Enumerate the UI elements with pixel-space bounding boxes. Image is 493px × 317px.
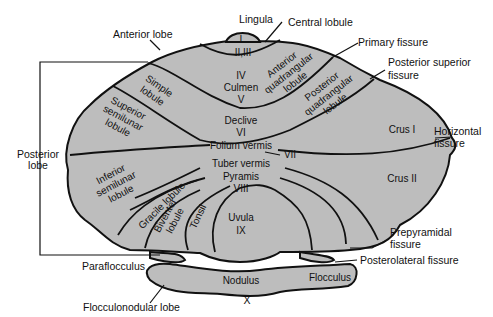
paraflocculus-shape-right — [300, 252, 334, 262]
label-nodulus: Nodulus — [223, 275, 260, 286]
label-posterior-superior-2: fissure — [388, 69, 419, 81]
leader-central-lobule — [265, 22, 282, 42]
label-VII: VII — [284, 149, 296, 160]
paraflocculus-shape-left — [150, 252, 185, 262]
label-culmen: Culmen — [224, 82, 258, 93]
label-VIII: VIII — [233, 183, 248, 194]
label-IV: IV — [236, 70, 246, 81]
label-horizontal-2: fissure — [434, 137, 465, 149]
label-I: I — [240, 34, 243, 45]
label-lingula: Lingula — [239, 13, 273, 25]
label-posterior-superior-1: Posterior superior — [388, 56, 471, 68]
label-flocculonodular: Flocculonodular lobe — [83, 301, 180, 313]
label-IX: IX — [236, 225, 246, 236]
label-X: X — [243, 294, 250, 306]
label-flocculus: Flocculus — [309, 272, 351, 283]
leader-posterolateral — [335, 260, 357, 262]
label-crus-II: Crus II — [387, 173, 416, 184]
label-uvula: Uvula — [228, 212, 254, 223]
label-anterior-lobe: Anterior lobe — [113, 28, 173, 40]
label-folium-vermis: Folium vermis — [210, 140, 272, 151]
label-central-lobule: Central lobule — [288, 16, 353, 28]
label-II-III: II,III — [235, 47, 252, 58]
label-VI: VI — [236, 127, 245, 138]
label-V: V — [238, 94, 245, 105]
label-posterior-lobe-2: lobe — [28, 159, 48, 171]
leader-anterior-lobe — [150, 40, 160, 50]
lingula-shape — [226, 33, 260, 42]
label-horizontal-1: Horizontal — [434, 125, 481, 137]
label-pyramis: Pyramis — [223, 171, 259, 182]
label-primary-fissure: Primary fissure — [358, 36, 428, 48]
label-prepyramidal-1: Prepyramidal — [390, 226, 452, 238]
label-tuber-vermis: Tuber vermis — [212, 158, 270, 169]
label-declive: Declive — [225, 115, 258, 126]
label-crus-I: Crus I — [389, 124, 416, 135]
leader-primary-fissure — [333, 43, 358, 57]
label-paraflocculus: Paraflocculus — [82, 260, 145, 272]
label-posterolateral: Posterolateral fissure — [360, 254, 459, 266]
cerebellum-diagram: Lingula Central lobule Anterior lobe Pri… — [0, 0, 493, 317]
label-prepyramidal-2: fissure — [390, 238, 421, 250]
